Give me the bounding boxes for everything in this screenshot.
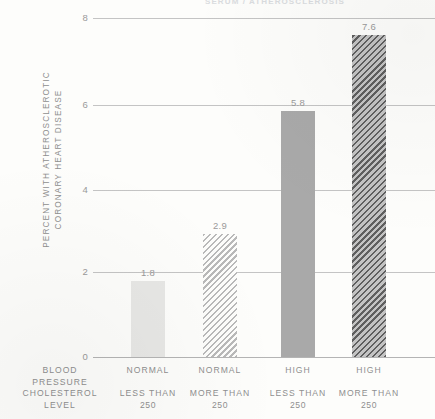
row-header-cholesterol-level-line-1: CHOLESTEROL	[23, 388, 98, 398]
row-header-cholesterol-level-line-2: LEVEL	[44, 400, 76, 410]
bp-cell-2: NORMAL	[175, 365, 265, 377]
chol-cell-2-text: MORE THAN	[190, 388, 250, 398]
row-header-blood-pressure-line-2: PRESSURE	[32, 377, 87, 387]
x-axis-label-table: BLOOD PRESSURE CHOLESTEROL LEVEL NORMAL …	[0, 361, 435, 419]
gridline-0-baseline	[93, 357, 435, 358]
row-header-blood-pressure: BLOOD PRESSURE	[4, 365, 116, 388]
bar-value-label-4: 7.6	[349, 21, 389, 32]
chol-cell-4: MORE THAN 250	[324, 388, 414, 411]
chol-cell-3-text: LESS THAN	[270, 388, 327, 398]
bp-cell-4: HIGH	[324, 365, 414, 377]
bar-high-bp-less-than-250[interactable]	[281, 111, 315, 357]
bar-value-label-1: 1.8	[128, 267, 168, 278]
y-axis-title-line-1: PERCENT WITH ATHEROSCLEROTIC	[41, 52, 53, 267]
bar-high-bp-more-than-250[interactable]	[352, 35, 386, 357]
y-axis-title: PERCENT WITH ATHEROSCLEROTIC CORONARY HE…	[41, 52, 64, 267]
gridline-8	[93, 18, 435, 19]
chol-cell-1-text: LESS THAN	[120, 388, 177, 398]
row-header-blood-pressure-line-1: BLOOD	[42, 365, 77, 375]
chol-cell-4-text: MORE THAN	[339, 388, 399, 398]
bar-normal-bp-more-than-250[interactable]	[203, 234, 237, 357]
chol-cell-2: MORE THAN 250	[175, 388, 265, 411]
y-tick-label-8: 8	[66, 12, 88, 23]
bar-normal-bp-less-than-250[interactable]	[131, 281, 165, 357]
chol-cell-2-value: 250	[175, 400, 265, 412]
y-tick-label-2: 2	[66, 266, 88, 277]
chol-cell-4-value: 250	[324, 400, 414, 412]
row-header-cholesterol-level: CHOLESTEROL LEVEL	[4, 388, 116, 411]
y-tick-label-4: 4	[66, 184, 88, 195]
bar-value-label-2: 2.9	[200, 220, 240, 231]
y-tick-label-6: 6	[66, 99, 88, 110]
bar-chart: PERCENT WITH ATHEROSCLEROTIC CORONARY HE…	[0, 0, 435, 419]
y-axis-title-line-2: CORONARY HEART DISEASE	[53, 52, 65, 267]
bar-value-label-3: 5.8	[278, 97, 318, 108]
